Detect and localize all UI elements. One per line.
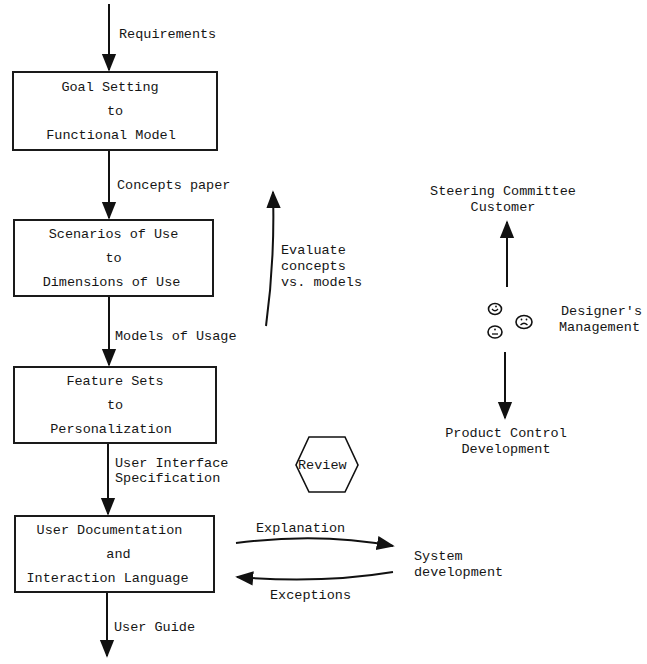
- stage-subtitle: Personalization: [7, 422, 215, 437]
- arrow-exceptions: [237, 572, 393, 580]
- label-management: Management: [559, 320, 640, 335]
- label-customer: Customer: [428, 200, 578, 215]
- label-development-system: development: [414, 565, 503, 580]
- stage-title: Scenarios of Use: [15, 227, 212, 242]
- neutral-face-icon: [488, 326, 502, 338]
- label-product-control: Product Control: [426, 426, 586, 441]
- stage-box-feature-sets: Feature Sets to Personalization: [13, 366, 217, 444]
- stage-connector: and: [24, 547, 213, 562]
- label-explanation: Explanation: [256, 521, 345, 536]
- label-development: Development: [426, 442, 586, 457]
- label-evaluate-line3: vs. models: [281, 275, 362, 290]
- label-models-of-usage: Models of Usage: [115, 329, 237, 344]
- sad-face-icon: [516, 316, 532, 329]
- stage-subtitle: Dimensions of Use: [11, 275, 212, 290]
- stage-box-scenarios: Scenarios of Use to Dimensions of Use: [13, 219, 214, 297]
- stage-title: Feature Sets: [15, 374, 215, 389]
- stage-connector: to: [15, 251, 212, 266]
- stage-box-user-documentation: User Documentation and Interaction Langu…: [14, 515, 215, 593]
- label-designers: Designer's: [561, 304, 642, 319]
- stage-connector: to: [14, 104, 216, 119]
- label-ui-specification-line2: Specification: [115, 471, 220, 486]
- arrow-evaluate-feedback: [266, 192, 273, 326]
- review-label: Review: [298, 458, 347, 473]
- label-steering-committee: Steering Committee: [428, 184, 578, 199]
- label-concepts-paper: Concepts paper: [117, 178, 230, 193]
- stage-connector: to: [15, 398, 215, 413]
- stage-subtitle: Interaction Language: [2, 571, 213, 586]
- stage-box-goal-setting: Goal Setting to Functional Model: [12, 71, 218, 151]
- label-exceptions: Exceptions: [270, 588, 351, 603]
- label-ui-specification-line1: User Interface: [115, 456, 228, 471]
- label-evaluate-line2: concepts: [281, 259, 346, 274]
- stage-subtitle: Functional Model: [6, 128, 216, 143]
- label-evaluate-line1: Evaluate: [281, 243, 346, 258]
- stage-title: Goal Setting: [4, 80, 216, 95]
- label-requirements: Requirements: [119, 27, 216, 42]
- happy-face-icon: [489, 304, 502, 315]
- label-user-guide: User Guide: [114, 620, 195, 635]
- label-system: System: [414, 549, 463, 564]
- stage-title: User Documentation: [6, 523, 213, 538]
- arrow-explanation: [236, 538, 393, 546]
